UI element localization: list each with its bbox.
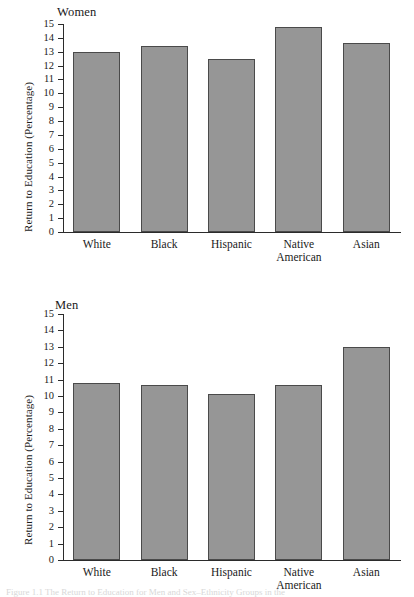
- y-tick-mark: [58, 38, 63, 39]
- chart-panel-women: Women Return to Education (Percentage) 1…: [0, 0, 414, 290]
- x-tick-label: Black: [130, 566, 197, 579]
- y-tick-label: 3: [49, 506, 54, 517]
- y-tick-label: 4: [49, 489, 54, 500]
- y-tick-label: 11: [44, 374, 54, 385]
- y-tick-label: 13: [44, 46, 55, 57]
- y-axis-line-men: [63, 314, 64, 561]
- y-tick-mark: [58, 107, 63, 108]
- y-tick-mark: [58, 544, 63, 545]
- y-tick-label: 5: [49, 157, 54, 168]
- y-tick-label: 7: [49, 440, 54, 451]
- y-tick-mark: [58, 135, 63, 136]
- y-tick-mark: [58, 24, 63, 25]
- plot-area-women: 1514131211109876543210: [63, 24, 400, 232]
- y-tick-label: 1: [49, 213, 54, 224]
- bar-black: [141, 385, 188, 560]
- y-axis-title-men: Return to Education (Percentage): [22, 395, 34, 545]
- y-tick-mark: [58, 218, 63, 219]
- y-tick-mark: [58, 79, 63, 80]
- y-tick-label: 10: [44, 391, 55, 402]
- y-tick-label: 9: [49, 407, 54, 418]
- x-tick-label: Hispanic: [198, 566, 265, 579]
- bar-asian: [343, 347, 390, 560]
- y-tick-mark: [58, 363, 63, 364]
- y-tick-label: 9: [49, 102, 54, 113]
- y-tick-mark: [58, 429, 63, 430]
- y-tick-label: 2: [49, 199, 54, 210]
- x-axis-line-women: [63, 232, 401, 233]
- y-tick-mark: [58, 52, 63, 53]
- chart-panel-men: Men Return to Education (Percentage) 151…: [0, 290, 414, 590]
- y-tick-label: 8: [49, 116, 54, 127]
- y-tick-mark: [58, 527, 63, 528]
- bar-native-american: [275, 385, 322, 560]
- y-tick-mark: [58, 121, 63, 122]
- y-tick-mark: [58, 66, 63, 67]
- figure-caption: Figure 1.1 The Return to Education for M…: [6, 588, 410, 597]
- y-tick-label: 5: [49, 473, 54, 484]
- y-tick-mark: [58, 380, 63, 381]
- bar-black: [141, 46, 188, 232]
- y-tick-label: 0: [49, 227, 54, 238]
- y-tick-label: 12: [44, 358, 55, 369]
- y-axis-line-women: [63, 24, 64, 233]
- bar-hispanic: [208, 59, 255, 232]
- y-tick-mark: [58, 412, 63, 413]
- y-tick-label: 10: [44, 88, 55, 99]
- y-tick-mark: [58, 445, 63, 446]
- y-tick-mark: [58, 232, 63, 233]
- y-tick-label: 15: [44, 19, 55, 30]
- y-tick-mark: [58, 93, 63, 94]
- y-tick-mark: [58, 511, 63, 512]
- figure-bar-charts: Women Return to Education (Percentage) 1…: [0, 0, 414, 597]
- y-tick-label: 8: [49, 424, 54, 435]
- y-tick-mark: [58, 330, 63, 331]
- y-tick-mark: [58, 149, 63, 150]
- x-axis-line-men: [63, 560, 401, 561]
- y-tick-label: 6: [49, 456, 54, 467]
- plot-area-men: 1514131211109876543210: [63, 314, 400, 560]
- y-tick-label: 14: [44, 325, 55, 336]
- y-tick-label: 1: [49, 538, 54, 549]
- y-tick-mark: [58, 204, 63, 205]
- bar-native-american: [275, 27, 322, 232]
- y-tick-label: 11: [44, 74, 54, 85]
- bar-white: [73, 383, 120, 560]
- y-tick-mark: [58, 478, 63, 479]
- y-tick-mark: [58, 560, 63, 561]
- x-tick-label: Asian: [333, 238, 400, 251]
- bar-hispanic: [208, 394, 255, 560]
- y-tick-mark: [58, 347, 63, 348]
- x-tick-label: White: [63, 238, 130, 251]
- y-tick-label: 4: [49, 171, 54, 182]
- y-tick-mark: [58, 462, 63, 463]
- y-tick-mark: [58, 314, 63, 315]
- bar-asian: [343, 43, 390, 232]
- y-tick-label: 12: [44, 60, 55, 71]
- y-tick-label: 15: [44, 309, 55, 320]
- chart-title-men: Men: [55, 298, 79, 313]
- x-tick-label: Black: [130, 238, 197, 251]
- x-tick-label: Hispanic: [198, 238, 265, 251]
- y-tick-mark: [58, 177, 63, 178]
- y-tick-mark: [58, 163, 63, 164]
- y-tick-label: 7: [49, 130, 54, 141]
- y-tick-mark: [58, 190, 63, 191]
- x-tick-label: Native American: [265, 238, 332, 263]
- y-tick-label: 0: [49, 555, 54, 566]
- y-tick-mark: [58, 396, 63, 397]
- y-tick-label: 14: [44, 33, 55, 44]
- y-tick-mark: [58, 494, 63, 495]
- y-tick-label: 3: [49, 185, 54, 196]
- y-tick-label: 13: [44, 342, 55, 353]
- bar-white: [73, 52, 120, 232]
- y-tick-label: 2: [49, 522, 54, 533]
- chart-title-women: Women: [57, 5, 97, 20]
- x-tick-label: Asian: [333, 566, 400, 579]
- x-tick-label: White: [63, 566, 130, 579]
- y-tick-label: 6: [49, 144, 54, 155]
- y-axis-title-women: Return to Education (Percentage): [22, 82, 34, 232]
